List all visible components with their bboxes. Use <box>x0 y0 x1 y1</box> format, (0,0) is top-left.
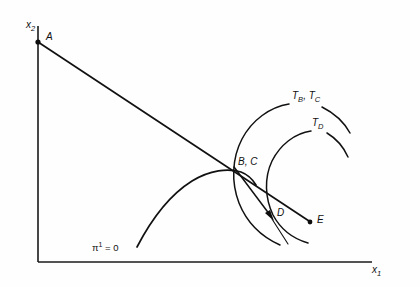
y-axis-label: x2 <box>26 20 35 30</box>
diagram-canvas <box>0 0 420 287</box>
indifference-curve-td <box>266 131 311 243</box>
point-label-bc: B, C <box>238 157 257 167</box>
indifference-curve-tb-tc <box>234 104 289 245</box>
economics-diagram: x2 x1 A B, C D E TB, TC TD π1 = 0 <box>0 0 420 287</box>
point-label-a: A <box>46 32 53 42</box>
profit-zero-curve <box>137 170 256 247</box>
budget-line-a-e <box>38 42 309 221</box>
point-e-dot <box>308 220 313 225</box>
indifference-curve-tb-tc-tail <box>322 107 350 133</box>
y-axis-label-sub: 2 <box>31 24 35 33</box>
point-label-d: D <box>277 208 284 218</box>
curve-label-td-sub: D <box>318 122 323 131</box>
point-label-e: E <box>317 215 324 225</box>
x-axis-label-sub: 1 <box>377 269 381 278</box>
indifference-curve-td-tail <box>327 133 348 157</box>
curve-label-profit-zero: π1 = 0 <box>92 243 119 253</box>
curve-label-td: TD <box>312 118 324 128</box>
curve-label-tc-sub: C <box>315 95 320 104</box>
curve-label-tb-tc: TB, TC <box>292 91 320 101</box>
pi-equals-zero: = 0 <box>102 242 118 253</box>
point-a-dot <box>35 39 40 44</box>
x-axis-label: x1 <box>372 265 381 275</box>
